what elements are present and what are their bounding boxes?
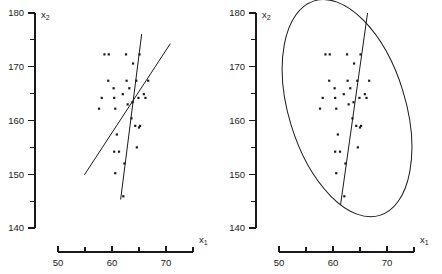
data-point: [334, 97, 336, 99]
left-x-axis: 506070: [53, 246, 193, 268]
y-tick-label: 160: [229, 115, 245, 126]
y-tick-label: 180: [8, 7, 24, 18]
data-point: [339, 151, 341, 153]
y-tick-label: 140: [8, 222, 24, 233]
left-x-tick-labels: 506070: [53, 257, 172, 268]
data-point: [113, 87, 115, 89]
data-point: [127, 103, 129, 105]
data-point: [358, 97, 360, 99]
data-point: [116, 133, 118, 135]
x-tick-label: 50: [274, 257, 285, 268]
data-point: [368, 80, 370, 82]
data-point: [134, 125, 136, 127]
data-point: [329, 53, 331, 55]
data-point: [108, 53, 110, 55]
y-tick-label: 140: [229, 222, 245, 233]
y-tick-label: 150: [8, 169, 24, 180]
right-y-tick-labels: 140150160170180: [229, 7, 245, 233]
data-point: [334, 151, 336, 153]
left-panel: 140150160170180 506070 x2 x1: [0, 0, 221, 274]
x-tick-label: 70: [382, 257, 393, 268]
left-x-ticks: [58, 246, 193, 252]
y-tick-label: 150: [229, 169, 245, 180]
right-x-axis-title: x1: [420, 234, 429, 246]
data-point: [335, 108, 337, 110]
data-point: [324, 53, 326, 55]
left-y-axis: 140150160170180: [8, 7, 35, 233]
regression-line-steep: [121, 34, 142, 200]
data-point: [125, 53, 127, 55]
regression-line-shallow: [84, 44, 170, 175]
left-y-tick-labels: 140150160170180: [8, 7, 24, 233]
data-point: [128, 87, 130, 89]
data-point: [349, 87, 351, 89]
data-point: [138, 126, 140, 128]
data-point: [343, 195, 345, 197]
x-tick-label: 70: [161, 257, 172, 268]
data-point: [344, 162, 346, 164]
right-y-axis: 140150160170180: [229, 7, 256, 233]
data-point: [343, 93, 345, 95]
left-y-axis-title: x2: [41, 9, 50, 21]
data-point: [365, 97, 367, 99]
right-y-axis-title: x2: [262, 9, 271, 21]
right-x-ticks: [279, 246, 414, 252]
left-x-axis-title: x1: [199, 234, 208, 246]
data-point: [101, 97, 103, 99]
data-point: [357, 146, 359, 148]
regression-line-steep: [341, 13, 368, 205]
data-point: [114, 108, 116, 110]
data-point: [123, 162, 125, 164]
data-point: [364, 93, 366, 95]
right-y-ticks: [249, 13, 256, 228]
data-point: [334, 87, 336, 89]
right-panel-plot: 140150160170180 506070 x2 x1: [221, 0, 442, 274]
data-point: [346, 80, 348, 82]
data-point: [122, 93, 124, 95]
x-tick-label: 60: [328, 257, 339, 268]
data-point: [144, 97, 146, 99]
data-point: [113, 97, 115, 99]
data-point: [143, 93, 145, 95]
right-x-axis: 506070: [274, 246, 414, 268]
data-point: [335, 172, 337, 174]
y-tick-label: 170: [229, 61, 245, 72]
y-tick-label: 180: [229, 7, 245, 18]
data-point: [356, 80, 358, 82]
y-tick-label: 170: [8, 61, 24, 72]
data-point: [113, 151, 115, 153]
right-regression-lines: [341, 13, 368, 205]
data-point: [328, 80, 330, 82]
data-point: [137, 97, 139, 99]
x-tick-label: 50: [53, 257, 64, 268]
data-point: [147, 80, 149, 82]
left-regression-lines: [84, 34, 170, 200]
right-x-tick-labels: 506070: [274, 257, 393, 268]
data-point: [359, 53, 361, 55]
data-point: [135, 80, 137, 82]
data-point: [132, 62, 134, 64]
data-point: [103, 53, 105, 55]
data-point: [125, 80, 127, 82]
data-point: [322, 97, 324, 99]
data-point: [355, 125, 357, 127]
data-point: [130, 117, 132, 119]
data-point: [348, 103, 350, 105]
scatter-plot-figure: 140150160170180 506070 x2 x1 14015016017…: [0, 0, 442, 274]
y-tick-label: 160: [8, 115, 24, 126]
data-point: [346, 53, 348, 55]
data-point: [359, 126, 361, 128]
concentration-ellipse: [258, 0, 435, 232]
data-point: [114, 172, 116, 174]
data-point: [118, 151, 120, 153]
right-panel: 140150160170180 506070 x2 x1: [221, 0, 442, 274]
data-point: [122, 195, 124, 197]
data-point: [337, 133, 339, 135]
data-point: [136, 146, 138, 148]
data-point: [319, 108, 321, 110]
data-point: [138, 53, 140, 55]
data-point: [351, 117, 353, 119]
data-point: [131, 101, 133, 103]
left-y-ticks: [28, 13, 35, 228]
data-point: [352, 101, 354, 103]
